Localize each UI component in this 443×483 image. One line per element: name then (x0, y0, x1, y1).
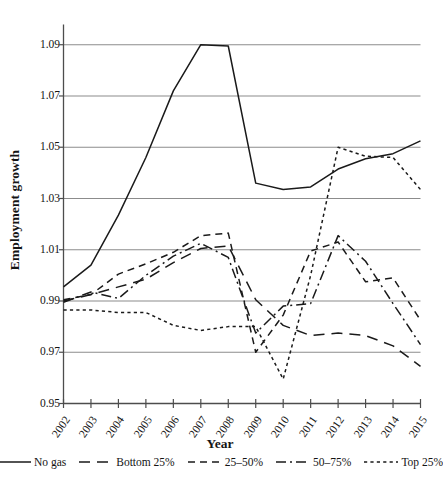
legend-swatch-line (364, 457, 398, 467)
legend-swatch-line (79, 457, 113, 467)
chart-legend: No gasBottom 25%25–50%50–75%Top 25% (0, 456, 440, 468)
legend-swatch-line (188, 457, 222, 467)
axis-lines (64, 25, 421, 404)
legend-label: Top 25% (401, 456, 443, 468)
x-axis-title-text: Year (207, 436, 234, 451)
x-axis-title: Year (0, 436, 440, 452)
legend-swatch-line (276, 457, 310, 467)
series-lines (64, 45, 421, 379)
legend-item: 25–50% (188, 456, 263, 468)
series-line-no-gas (64, 45, 421, 287)
legend-item: 50–75% (276, 456, 351, 468)
legend-label: No gas (34, 456, 66, 468)
series-line-25-50 (64, 233, 421, 352)
legend-label: 25–50% (225, 456, 263, 468)
gridlines (64, 45, 421, 404)
legend-swatch-line (0, 457, 31, 467)
legend-item: Bottom 25% (79, 456, 174, 468)
series-line-50-75 (64, 236, 421, 345)
legend-item: No gas (0, 456, 66, 468)
legend-item: Top 25% (364, 456, 443, 468)
legend-label: Bottom 25% (116, 456, 174, 468)
x-axis-ticks (59, 45, 421, 408)
legend-label: 50–75% (313, 456, 351, 468)
